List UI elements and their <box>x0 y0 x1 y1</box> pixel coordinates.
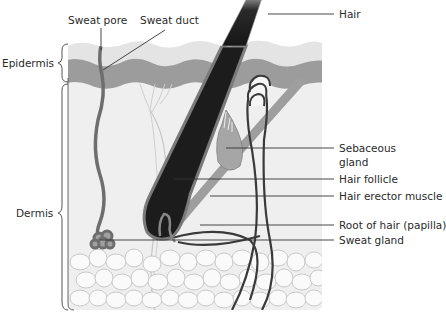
fat-cells <box>70 249 326 308</box>
dermis-brace <box>58 84 68 310</box>
label-hair-erector-muscle: Hair erector muscle <box>339 190 442 202</box>
label-epidermis: Epidermis <box>2 57 54 69</box>
label-dermis: Dermis <box>16 207 53 219</box>
skin-cross-section <box>60 30 330 314</box>
label-hair: Hair <box>339 8 361 20</box>
epidermis-brace <box>58 44 68 82</box>
sweat-gland-coil <box>91 231 114 248</box>
label-sweat-gland: Sweat gland <box>339 234 404 246</box>
label-sebaceous-gland-2: gland <box>339 156 368 168</box>
label-root-of-hair: Root of hair (papilla) <box>339 219 446 231</box>
hair-shaft <box>222 0 262 46</box>
label-hair-follicle: Hair follicle <box>339 173 398 185</box>
label-sweat-duct: Sweat duct <box>140 14 199 26</box>
label-sebaceous-gland-1: Sebaceous <box>339 142 396 154</box>
label-sweat-pore: Sweat pore <box>68 14 127 26</box>
